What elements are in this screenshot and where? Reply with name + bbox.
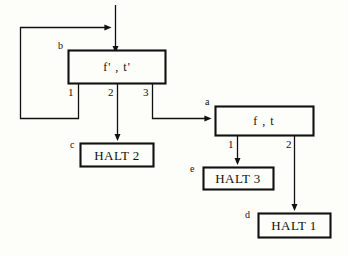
- node-a-port-2-label: 2: [286, 139, 292, 150]
- node-e-tag: e: [190, 164, 194, 174]
- node-b-port-2-label: 2: [108, 87, 114, 98]
- node-b-port-1-label: 1: [68, 87, 74, 98]
- node-b-tag: b: [58, 41, 63, 51]
- node-c-tag: c: [70, 140, 74, 150]
- node-a-port-1-label: 1: [228, 139, 234, 150]
- node-d-halt1-label: HALT 1: [271, 219, 316, 232]
- edge-b-port3-to-a: [153, 83, 209, 119]
- diagram-canvas: f' , t' b 1 2 3 f , t a 1 2 HALT 2 c HAL…: [0, 0, 348, 256]
- node-c-halt2-label: HALT 2: [94, 149, 139, 162]
- node-d-tag: d: [245, 210, 250, 220]
- node-a-tag: a: [205, 97, 209, 107]
- node-b-port-3-label: 3: [143, 87, 149, 98]
- node-b-label: f' , t': [103, 61, 131, 73]
- node-e-halt3-label: HALT 3: [215, 172, 260, 185]
- node-a-label: f , t: [253, 115, 274, 127]
